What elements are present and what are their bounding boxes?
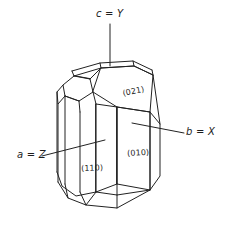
crystal-edge-left-facet-down [79, 101, 80, 112]
axis-label-b-x: b = X [186, 127, 215, 137]
face-label-010: (010) [127, 149, 149, 158]
face-label-110-text: (110) [81, 163, 103, 173]
axis-label-c-y-text: c = Y [96, 8, 123, 19]
crystal-edge-top-left-tie [72, 71, 74, 76]
crystal-edge-right-back [150, 112, 160, 190]
crystal-edge-bottom-left-outer [57, 172, 96, 196]
crystal-edge-bottom-inner-ridge [96, 192, 117, 195]
crystal-face-110 [96, 104, 117, 192]
crystal-drawing [0, 0, 225, 228]
axis-label-a-z: a = Z [17, 150, 46, 160]
crystal-edge-top-ridge-back [72, 61, 152, 71]
face-label-110: (110) [81, 164, 103, 173]
crystal-edge-prism-left-top-tie [65, 96, 79, 101]
crystal-edge-top-mid-tie-a [100, 63, 101, 68]
leader-line-b-x [132, 123, 184, 133]
crystal-edge-upper-left-top [74, 76, 90, 79]
axis-label-c-y: c = Y [96, 9, 123, 19]
crystal-axes-figure: c = Y b = X a = Z (021) (010) (110) [0, 0, 225, 228]
axis-label-a-z-text: a = Z [17, 149, 46, 160]
face-label-010-text: (010) [127, 148, 149, 158]
axis-label-b-x-text: b = X [186, 126, 215, 137]
